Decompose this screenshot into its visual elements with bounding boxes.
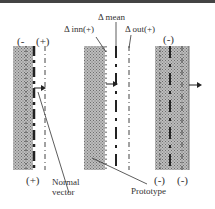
panel-3 bbox=[155, 46, 202, 170]
prototype-label: Prototype bbox=[131, 186, 166, 196]
prototype-leader bbox=[92, 158, 147, 184]
sign-panel1-top-right: (+) bbox=[36, 35, 50, 48]
sign-panel1-top-left: (- bbox=[17, 35, 25, 48]
delta-inn-label: Δ inn(+) bbox=[64, 24, 94, 34]
normal-vector-label-2: vector bbox=[52, 187, 75, 197]
panel-1 bbox=[13, 46, 69, 193]
sign-panel1-bottom: (+) bbox=[26, 174, 40, 187]
prototype-diagram: Δ mean Δ inn(+) Δ out(+) Normal vector P… bbox=[0, 0, 215, 209]
out-leader bbox=[129, 35, 131, 48]
top-border bbox=[0, 0, 215, 3]
panel-2 bbox=[84, 22, 147, 184]
sign-panel3-top: (-) bbox=[163, 33, 174, 46]
delta-out-label: Δ out(+) bbox=[125, 24, 155, 34]
delta-mean-label: Δ mean bbox=[98, 12, 126, 22]
hatched-region bbox=[13, 46, 33, 170]
hatched-region bbox=[84, 46, 105, 170]
arrow-head-icon bbox=[197, 82, 202, 88]
sign-panel3-bottom-right: (-) bbox=[177, 174, 188, 187]
normal-vector-label-1: Normal bbox=[52, 177, 80, 187]
sign-panel3-bottom-left: (-) bbox=[154, 174, 165, 187]
